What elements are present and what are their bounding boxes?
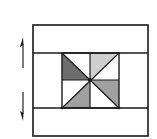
corner-dot-bl	[61, 107, 64, 110]
center-dot	[88, 78, 92, 82]
corner-dot-br	[118, 107, 121, 110]
down-arrow-icon	[20, 92, 24, 121]
corner-dot-tr	[118, 52, 120, 54]
up-arrow-icon	[20, 37, 24, 68]
quilt-diagram	[0, 0, 157, 139]
